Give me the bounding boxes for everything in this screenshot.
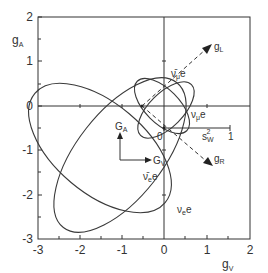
svg-text:-3: -3 — [33, 243, 44, 257]
antinue-e-ellipse — [6, 59, 194, 237]
coupling-diagram: 2 1 0 -1 -2 -3 -3 -2 -1 0 1 2 gA gV 0 1 … — [0, 0, 268, 273]
ga-arrow-icon — [117, 132, 123, 139]
svg-text:2: 2 — [26, 10, 33, 24]
x-tick-labels: -3 -2 -1 0 1 2 — [33, 243, 254, 257]
origin-point — [141, 105, 144, 108]
y-ticks — [38, 17, 42, 217]
x-ticks — [59, 235, 228, 239]
svg-text:-1: -1 — [117, 243, 128, 257]
gl-label: gL — [214, 41, 224, 53]
sw2-label: sW2 — [202, 128, 214, 143]
x-axis-title: gV — [222, 257, 234, 272]
scale-origin-point — [163, 127, 166, 130]
svg-text:2: 2 — [247, 243, 254, 257]
gl-arrow-icon — [202, 44, 212, 54]
svg-text:-2: -2 — [22, 188, 33, 202]
antinue-e-label: ν̄ee — [143, 171, 158, 183]
gv-arrow-icon — [145, 157, 152, 163]
scale-one: 1 — [228, 131, 234, 142]
gr-label: gR — [214, 153, 225, 165]
scale-zero: 0 — [157, 131, 163, 142]
svg-text:0: 0 — [161, 243, 168, 257]
numu-e-label: νμe — [191, 109, 206, 122]
svg-text:-1: -1 — [22, 143, 33, 157]
gr-arrow-icon — [203, 157, 213, 166]
svg-text:1: 1 — [204, 243, 211, 257]
svg-text:1: 1 — [26, 54, 33, 68]
antinumu-e-label: ν̄μe — [171, 68, 186, 81]
ga-inset-label: GA — [115, 121, 128, 133]
nue-e-label: νee — [177, 204, 192, 216]
y-axis-title: gA — [12, 33, 24, 48]
svg-text:-2: -2 — [75, 243, 86, 257]
